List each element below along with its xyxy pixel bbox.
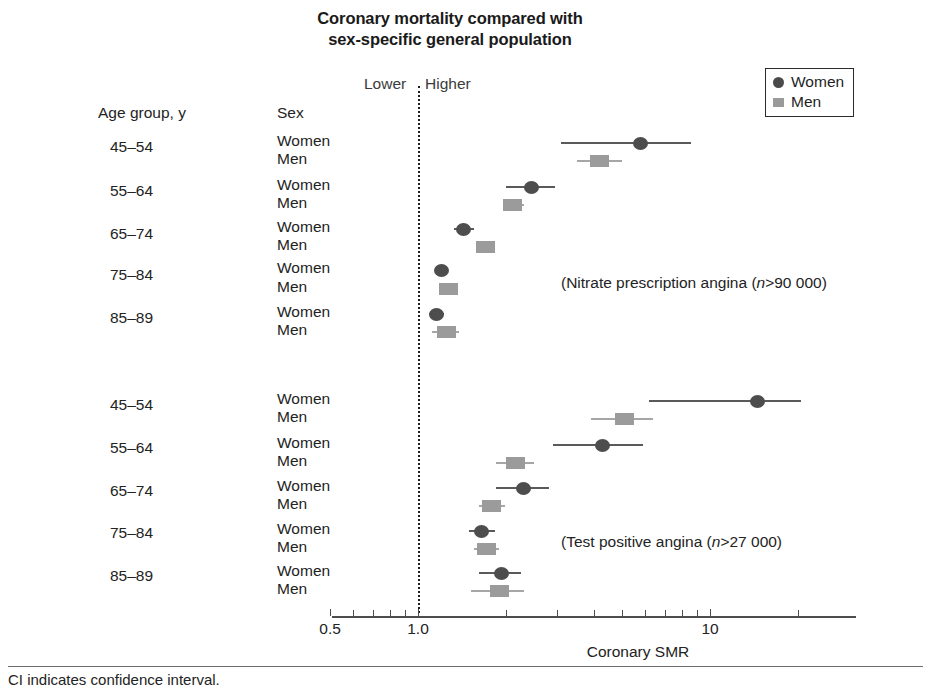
legend-item-women: Women [773, 72, 844, 92]
axis-tick [622, 610, 623, 616]
confidence-interval-line [496, 487, 549, 489]
axis-tick [594, 610, 595, 616]
axis-tick-label: 1.0 [407, 620, 429, 638]
confidence-interval-line [553, 444, 643, 446]
row-label-sex: Women [277, 132, 330, 150]
confidence-interval-line [432, 331, 458, 333]
row-label-sex: Men [277, 278, 307, 296]
legend-label-women: Women [791, 74, 844, 90]
confidence-interval-line [649, 400, 801, 402]
data-point-women [456, 223, 471, 236]
row-label-sex: Women [277, 303, 330, 321]
data-point-men [506, 457, 525, 469]
confidence-interval-line [503, 204, 524, 206]
row-label-sex: Men [277, 408, 307, 426]
confidence-interval-line [577, 160, 622, 162]
legend-item-men: Men [773, 92, 844, 112]
column-header-age-group: Age group, y [98, 104, 186, 122]
confidence-interval-line [479, 505, 504, 507]
data-point-women [750, 395, 765, 408]
annotation-group-1-n: n [757, 274, 766, 291]
data-point-women [474, 525, 489, 538]
row-label-sex: Women [277, 477, 330, 495]
circle-marker-icon [773, 77, 784, 88]
axis-tick [557, 610, 558, 616]
row-label-sex: Men [277, 236, 307, 254]
annotation-group-1-suffix: >90 000) [765, 274, 827, 291]
data-point-women [494, 567, 509, 580]
row-label-sex: Women [277, 562, 330, 580]
confidence-interval-line [474, 548, 500, 550]
row-label-sex: Men [277, 150, 307, 168]
data-point-women [434, 264, 449, 277]
annotation-group-2-prefix: (Test positive angina ( [561, 533, 712, 550]
axis-tick [373, 610, 374, 616]
row-label-age-group: 85–89 [110, 309, 153, 327]
axis-tick-label: 0.5 [319, 620, 341, 638]
confidence-interval-line [436, 269, 448, 271]
page-title: Coronary mortality compared with sex-spe… [245, 8, 655, 50]
row-label-age-group: 55–64 [110, 439, 153, 457]
row-label-age-group: 65–74 [110, 225, 153, 243]
data-point-women [524, 181, 539, 194]
axis-tick [418, 609, 419, 616]
confidence-interval-line [469, 530, 494, 532]
direction-label-lower: Lower [364, 75, 406, 93]
data-point-women [516, 482, 531, 495]
row-label-sex: Men [277, 321, 307, 339]
data-point-men [615, 413, 634, 425]
data-point-women [429, 308, 444, 321]
row-label-sex: Women [277, 520, 330, 538]
legend-label-men: Men [791, 94, 821, 110]
axis-tick-label: 10 [701, 620, 718, 638]
axis-tick [506, 610, 507, 616]
row-label-age-group: 45–54 [110, 138, 153, 156]
confidence-interval-line [441, 288, 456, 290]
confidence-interval-line [506, 186, 555, 188]
legend: Women Men [765, 68, 854, 117]
row-label-sex: Men [277, 452, 307, 470]
row-label-age-group: 85–89 [110, 567, 153, 585]
row-label-sex: Men [277, 538, 307, 556]
data-point-men [439, 283, 458, 295]
data-point-men [490, 585, 509, 597]
confidence-interval-line [429, 313, 444, 315]
row-label-sex: Women [277, 176, 330, 194]
axis-tick [405, 610, 406, 616]
footer-divider [8, 666, 923, 667]
reference-line-at-1 [418, 86, 420, 613]
annotation-group-2: (Test positive angina (n>27 000) [561, 533, 782, 551]
axis-tick [798, 610, 799, 616]
page-title-line-2: sex-specific general population [245, 29, 655, 50]
axis-tick [353, 610, 354, 616]
confidence-interval-line [471, 590, 524, 592]
data-point-men [476, 241, 495, 253]
axis-tick [330, 609, 331, 616]
axis-tick [390, 610, 391, 616]
axis-tick [682, 610, 683, 616]
annotation-group-1-prefix: (Nitrate prescription angina ( [561, 274, 757, 291]
column-header-sex: Sex [277, 104, 304, 122]
direction-label-higher: Higher [425, 75, 471, 93]
row-label-sex: Women [277, 259, 330, 277]
row-label-sex: Men [277, 194, 307, 212]
footer-note: CI indicates confidence interval. [8, 671, 220, 688]
forest-plot-figure: Coronary mortality compared with sex-spe… [0, 0, 931, 692]
x-axis-line [332, 616, 856, 618]
confidence-interval-line [591, 418, 654, 420]
data-point-men [590, 155, 609, 167]
confidence-interval-line [454, 228, 473, 230]
axis-tick [710, 609, 711, 616]
x-axis-title: Coronary SMR [418, 643, 858, 661]
annotation-group-1: (Nitrate prescription angina (n>90 000) [561, 274, 827, 292]
row-label-age-group: 75–84 [110, 266, 153, 284]
confidence-interval-line [479, 572, 521, 574]
data-point-women [595, 439, 610, 452]
row-label-sex: Women [277, 390, 330, 408]
confidence-interval-line [478, 246, 494, 248]
axis-tick [697, 610, 698, 616]
data-point-men [503, 199, 522, 211]
row-label-age-group: 75–84 [110, 524, 153, 542]
annotation-group-2-suffix: >27 000) [720, 533, 782, 550]
row-label-age-group: 55–64 [110, 182, 153, 200]
